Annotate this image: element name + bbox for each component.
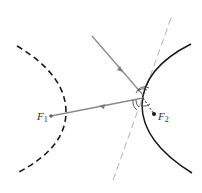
hyperbola-right-branch bbox=[142, 44, 192, 173]
angle-arc-lower-2 bbox=[133, 100, 137, 110]
hyperbola-diagram: F1 F2 bbox=[0, 0, 202, 193]
tangent-line bbox=[112, 18, 171, 183]
reflected-arrow-icon bbox=[99, 104, 105, 109]
label-f2: F2 bbox=[157, 110, 169, 124]
focus-f2-point bbox=[152, 112, 156, 116]
label-f1: F1 bbox=[36, 110, 48, 124]
angle-arc-lower bbox=[136, 100, 139, 107]
incident-ray bbox=[92, 36, 143, 95]
focus-f1-point bbox=[49, 114, 53, 118]
